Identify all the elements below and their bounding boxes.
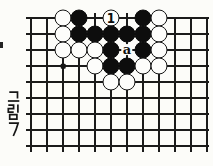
black-stone: [71, 10, 88, 27]
white-stone: [151, 42, 168, 59]
black-stone: [135, 42, 152, 59]
grid-line-horizontal: [26, 145, 209, 147]
black-stone: [103, 58, 120, 75]
grid-line-vertical: [206, 18, 208, 152]
grid-line-vertical: [190, 18, 192, 152]
white-stone: [103, 74, 120, 91]
black-stone: [119, 26, 136, 43]
white-stone: [151, 26, 168, 43]
star-point: [61, 64, 66, 69]
grid-line-horizontal: [26, 97, 209, 99]
white-stone: [55, 26, 72, 43]
black-stone: [103, 26, 120, 43]
grid-line-horizontal: [26, 113, 209, 115]
white-stone: [55, 10, 72, 27]
white-stone: [151, 10, 168, 27]
point-label-a: a: [121, 44, 132, 55]
move-number-marker: 1: [107, 11, 115, 24]
black-stone: [119, 58, 136, 75]
white-stone: [87, 42, 104, 59]
grid-line-vertical: [30, 18, 32, 152]
grid-line-vertical: [174, 18, 176, 152]
black-stone: [103, 42, 120, 59]
white-stone: 1: [103, 10, 120, 27]
white-stone: [71, 42, 88, 59]
black-stone: [87, 26, 104, 43]
go-board: 1a: [0, 0, 213, 166]
grid-line-horizontal: [26, 129, 209, 131]
grid-line-vertical: [46, 18, 48, 152]
black-stone: [135, 26, 152, 43]
book-page: 그림 7 1a: [0, 0, 213, 166]
white-stone: [151, 58, 168, 75]
white-stone: [135, 58, 152, 75]
white-stone: [55, 42, 72, 59]
white-stone: [87, 58, 104, 75]
black-stone: [71, 26, 88, 43]
white-stone: [119, 74, 136, 91]
black-stone: [135, 10, 152, 27]
